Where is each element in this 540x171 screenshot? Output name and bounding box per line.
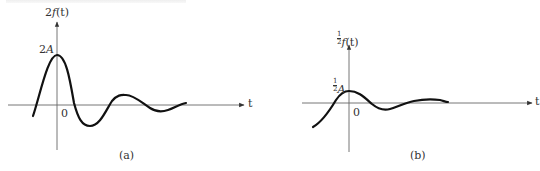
panel-b-t-label: t	[535, 96, 539, 107]
panel-a-peak-symbol: A	[46, 43, 54, 56]
panel-a-peak-prefix: 2	[39, 43, 46, 56]
panel-a-peak-label: 2A	[39, 44, 54, 55]
panel-b-peak-label: 12A	[333, 78, 345, 95]
panel-a-y-axis-label: 2f(t)	[45, 7, 69, 18]
panel-a-y-prefix: 2	[45, 6, 52, 19]
panel-b-curve	[313, 91, 448, 127]
panel-b-caption: (b)	[410, 150, 426, 161]
panel-a-t-label: t	[248, 98, 252, 109]
panel-a-caption: (a)	[119, 150, 134, 161]
panel-b-origin-label: 0	[353, 107, 360, 118]
panel-b-y-axis-label: 12f(t)	[337, 31, 359, 48]
panel-a-origin-label: 0	[61, 108, 68, 119]
panel-b-peak-symbol: A	[337, 83, 345, 96]
panel-a-plot	[8, 22, 244, 150]
panel-b-plot	[302, 45, 532, 152]
figure-canvas	[0, 0, 540, 171]
panel-a-y-arg: (t)	[56, 6, 69, 19]
panel-a-curve	[33, 55, 186, 126]
panel-b-y-arg: (t)	[346, 36, 359, 49]
